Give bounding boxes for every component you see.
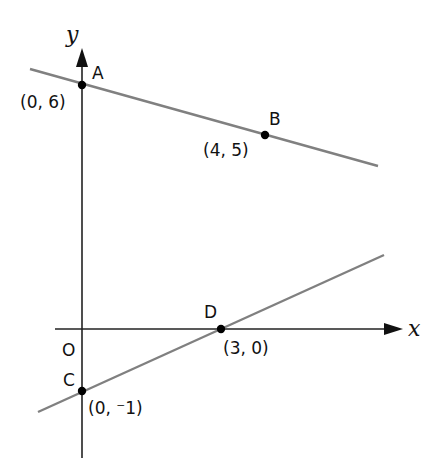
x-axis-label: x [408, 316, 421, 341]
point-b-coord: (4, 5) [203, 140, 249, 160]
point-c-coord: (0, ⁻1) [88, 398, 143, 418]
point-d-label: D [204, 302, 217, 322]
point-d-coord: (3, 0) [223, 338, 269, 358]
point-a-label: A [92, 63, 104, 83]
x-axis-arrow-icon [384, 323, 403, 335]
point-b [261, 131, 269, 139]
origin-label: O [62, 340, 75, 360]
point-d [217, 325, 225, 333]
point-a [78, 81, 86, 89]
y-axis-arrow-icon [76, 48, 88, 67]
point-a-coord: (0, 6) [20, 92, 66, 112]
point-c [78, 387, 86, 395]
point-b-label: B [269, 109, 281, 129]
coordinate-diagram: y x O A (0, 6) B (4, 5) C (0, ⁻1) D (3, … [0, 0, 443, 470]
line-cd [38, 255, 384, 412]
y-axis-label: y [65, 22, 79, 47]
point-c-label: C [63, 370, 75, 390]
